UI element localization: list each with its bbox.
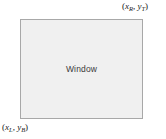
paren-close: )	[25, 122, 28, 132]
paren-close: )	[145, 1, 148, 11]
window-label: Window	[21, 65, 142, 74]
corner-label-top-right: (xR, yT)	[122, 2, 148, 11]
x-subscript: L	[9, 126, 13, 133]
y-subscript: T	[141, 5, 145, 12]
window-diagram: Window (xR, yT) (xL, yB)	[0, 0, 166, 139]
corner-label-bottom-left: (xL, yB)	[2, 123, 28, 132]
x-subscript: R	[129, 5, 133, 12]
y-subscript: B	[21, 126, 25, 133]
window-rectangle: Window	[20, 19, 143, 119]
